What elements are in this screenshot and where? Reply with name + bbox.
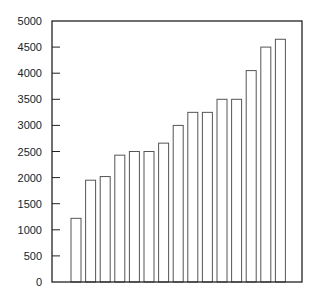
y-tick-label: 0	[36, 276, 42, 288]
bar-14	[261, 47, 271, 282]
bar-13	[246, 71, 256, 282]
bar-12	[232, 99, 242, 282]
y-tick-label: 3500	[18, 93, 42, 105]
y-tick-label: 2000	[18, 172, 42, 184]
bars-group	[71, 39, 285, 282]
bar-10	[202, 112, 212, 282]
y-tick-label: 4500	[18, 41, 42, 53]
bar-8	[173, 125, 183, 282]
y-tick-label: 3000	[18, 119, 42, 131]
bar-5	[129, 152, 139, 283]
bar-3	[100, 177, 110, 282]
bar-6	[144, 152, 154, 283]
bar-1	[71, 218, 81, 282]
y-tick-label: 2500	[18, 146, 42, 158]
y-tick-label: 4000	[18, 67, 42, 79]
bar-15	[275, 39, 285, 282]
bar-11	[217, 99, 227, 282]
bar-4	[115, 155, 125, 282]
bar-chart: 0500100015002000250030003500400045005000	[0, 0, 316, 301]
y-axis-ticks: 0500100015002000250030003500400045005000	[18, 15, 60, 288]
bar-7	[159, 143, 169, 282]
bar-2	[86, 180, 96, 282]
y-tick-label: 1000	[18, 224, 42, 236]
y-tick-label: 1500	[18, 198, 42, 210]
bar-9	[188, 112, 198, 282]
y-tick-label: 5000	[18, 15, 42, 27]
y-tick-label: 500	[24, 250, 42, 262]
